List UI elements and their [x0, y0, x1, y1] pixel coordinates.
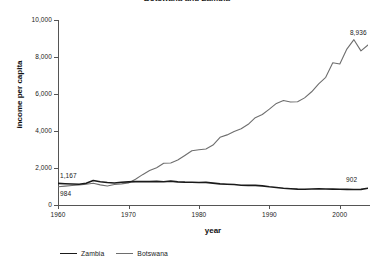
- legend-label-zambia: Zambia: [81, 250, 104, 257]
- legend-item-zambia[interactable]: Zambia: [60, 250, 104, 257]
- y-axis-tick-label: 6,000: [35, 90, 52, 97]
- chart-container: Botswana and Zambia income per capita ye…: [0, 0, 374, 273]
- y-axis-tick-label: 0: [48, 201, 52, 208]
- y-axis-tick-label: 10,000: [32, 16, 52, 23]
- x-axis-tick-label: 1990: [262, 211, 277, 218]
- botswana-start-value: 984: [60, 190, 71, 197]
- plot-area: [58, 20, 368, 205]
- series-lines: [58, 20, 368, 206]
- y-axis-tick-label: 2,000: [35, 164, 52, 171]
- botswana-peak-value: 8,936: [350, 29, 367, 36]
- legend-line-swatch-botswana: [116, 253, 133, 254]
- y-axis-tick-label: 8,000: [35, 53, 52, 60]
- legend-label-botswana: Botswana: [137, 250, 168, 257]
- x-axis-tick-label: 1960: [51, 211, 66, 218]
- zambia-end-value: 902: [346, 176, 357, 183]
- line-botswana: [58, 40, 368, 187]
- x-axis-tick-label: 2000: [332, 211, 347, 218]
- x-axis-tick-label: 1970: [121, 211, 136, 218]
- chart-legend: Zambia Botswana: [60, 250, 168, 257]
- chart-title: Botswana and Zambia: [0, 0, 374, 3]
- legend-item-botswana[interactable]: Botswana: [116, 250, 168, 257]
- legend-line-swatch-zambia: [60, 253, 77, 254]
- x-axis-tick-label: 1980: [191, 211, 206, 218]
- zambia-start-value: 1,167: [60, 172, 77, 179]
- x-axis-title: year: [58, 226, 368, 235]
- y-axis-title: income per capita: [15, 40, 24, 150]
- y-axis-tick-label: 4,000: [35, 127, 52, 134]
